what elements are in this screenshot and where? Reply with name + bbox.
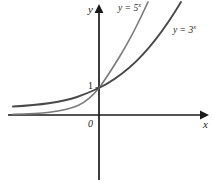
curve-label-5-base: y = 5 bbox=[118, 3, 138, 13]
curve-label-5-exponent: x bbox=[138, 1, 141, 8]
curve-label-3-base: y = 3 bbox=[173, 25, 193, 35]
y-axis-arrowhead bbox=[95, 4, 104, 13]
origin-label: 0 bbox=[88, 119, 93, 129]
curve-y-equals-5-to-the-x bbox=[13, 2, 148, 114]
y-intercept-tick-label: 1 bbox=[88, 81, 93, 91]
exponential-functions-figure: y x 0 1 y = 5x y = 3x bbox=[0, 0, 214, 189]
curve-label-y-equals-5-to-the-x: y = 5x bbox=[118, 4, 141, 14]
x-axis-label: x bbox=[203, 119, 208, 130]
curve-label-3-exponent: x bbox=[193, 23, 196, 30]
y-axis-label: y bbox=[88, 4, 93, 15]
curve-label-y-equals-3-to-the-x: y = 3x bbox=[173, 26, 196, 36]
